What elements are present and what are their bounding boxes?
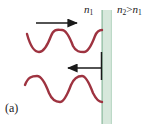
medium-1-label: n1 xyxy=(84,4,93,16)
reflected-wave xyxy=(25,76,102,102)
medium-2-label: n2>n1 xyxy=(117,4,142,16)
medium-1-subscript: 1 xyxy=(90,8,94,17)
panel-label: (a) xyxy=(5,102,18,114)
interface-slab xyxy=(102,10,113,124)
figure-canvas xyxy=(0,0,161,127)
medium-1-subscript-ref: 1 xyxy=(138,8,142,17)
physics-figure-wave-reflection: n1 n2>n1 (a) xyxy=(0,0,161,127)
incident-wave xyxy=(27,30,102,52)
